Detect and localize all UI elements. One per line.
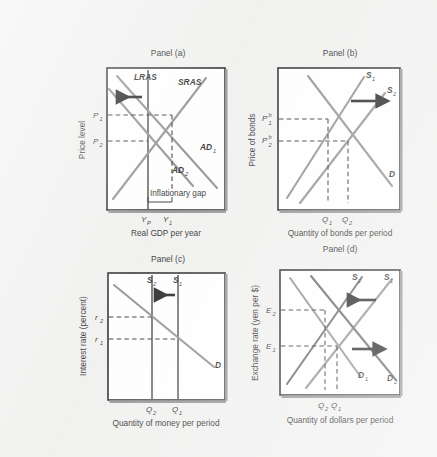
panel-b-xaxis-title: Quantity of bonds per period xyxy=(288,228,393,238)
economics-four-panel-figure: Panel (a) Inflationary gap LRAS SRAS AD … xyxy=(0,0,437,457)
panel-d-label-d2-text: D xyxy=(387,373,393,383)
panel-b-label-d: D xyxy=(389,169,395,179)
panel-a-ytick-p1-text: P xyxy=(93,111,99,120)
panel-a-label-lras: LRAS xyxy=(134,72,157,82)
panel-c-label-s1-sub: 1 xyxy=(179,281,182,287)
panel-a-ytick-p1-sub: 1 xyxy=(100,116,103,122)
panel-a-label-ad1-text: AD xyxy=(199,142,212,152)
panel-a-xaxis-title: Real GDP per year xyxy=(131,228,201,238)
panel-c-title: Panel (c) xyxy=(151,254,185,264)
figure-canvas: Panel (a) Inflationary gap LRAS SRAS AD … xyxy=(0,0,437,457)
panel-b-ytick-p1b-sub: 1 xyxy=(269,120,272,126)
panel-c-xtick-q1-text: Q xyxy=(172,405,178,414)
panel-b-title: Panel (b) xyxy=(323,48,358,58)
panel-d-xtick-q1-sub: 1 xyxy=(338,406,341,412)
panel-b-xtick-q1-sub: 1 xyxy=(329,220,332,226)
panel-c-yaxis-title: Interest rate (percent) xyxy=(78,296,88,376)
panel-d-label-s1-sub: 1 xyxy=(390,278,393,284)
panel-a-label-sras: SRAS xyxy=(178,77,202,87)
panel-c-ytick-r1-text: r xyxy=(95,335,98,344)
panel-d-label-d1-text: D xyxy=(358,370,364,380)
panel-c-xaxis-title: Quantity of money per period xyxy=(113,418,220,428)
panel-b-ytick-p1b-text: P xyxy=(262,114,268,123)
panel-a-gap-label: Inflationary gap xyxy=(150,189,206,198)
panel-b-label-s1-sub: 1 xyxy=(372,76,375,82)
panel-b-ytick-p1b-sup: b xyxy=(269,112,272,118)
panel-b-ytick-p2b-sup: b xyxy=(269,134,272,140)
panel-b-xtick-q2-text: Q xyxy=(342,215,348,224)
panel-a-xtick-y1-sub: 1 xyxy=(169,220,172,226)
panel-c-ytick-r1-sub: 1 xyxy=(100,340,103,346)
panel-b-ytick-p2b-text: P xyxy=(262,136,268,145)
panel-b-yaxis-title: Price of bonds xyxy=(247,113,257,166)
panel-c-xtick-q1-sub: 1 xyxy=(179,410,182,416)
panel-a-xtick-yp-sub: P xyxy=(147,220,151,226)
panel-d-label-d1-sub: 1 xyxy=(365,376,368,382)
panel-a-title: Panel (a) xyxy=(151,48,186,58)
panel-c-xtick-q2-text: Q xyxy=(146,405,152,414)
panel-b-xtick-q1-text: Q xyxy=(322,215,328,224)
panel-d-xaxis-title: Quantity of dollars per period xyxy=(287,415,394,425)
panel-a-label-ad1-sub: 1 xyxy=(213,148,216,154)
panel-d-ytick-e1-sub: 1 xyxy=(273,347,276,353)
panel-c-plot-frame xyxy=(108,273,225,400)
panel-b-plot-frame xyxy=(278,68,400,210)
panel-a-yaxis-title: Price level xyxy=(77,121,87,159)
panel-d-xtick-q2-text: Q xyxy=(318,401,324,410)
panel-d-ytick-e2-text: E xyxy=(266,306,272,315)
panel-a-ytick-p2-text: P xyxy=(93,137,99,146)
panel-d-title: Panel (d) xyxy=(323,244,358,254)
panel-a-label-ad2-text: AD xyxy=(171,165,184,175)
panel-d-yaxis-title: Exchange rate (yen per $) xyxy=(250,285,260,381)
panel-d-xtick-q1-text: Q xyxy=(331,401,337,410)
panel-d-ytick-e1-text: E xyxy=(266,342,272,351)
panel-c-label-d: D xyxy=(215,360,221,370)
panel-c-ytick-r2-text: r xyxy=(95,313,98,322)
